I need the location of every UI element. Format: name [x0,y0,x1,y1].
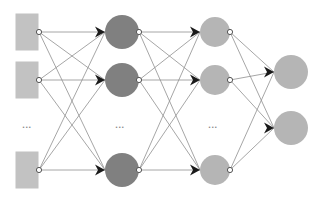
input-node-rect[interactable] [16,152,39,189]
hidden-1-node-circle[interactable] [105,153,139,187]
ellipsis-labels: ......... [22,120,217,130]
output-node-circle[interactable] [274,111,308,145]
node-output-port[interactable] [227,29,232,34]
hidden-2-node-circle[interactable] [200,65,230,95]
connection-edge [230,32,274,128]
hidden-1-ellipsis: ... [115,120,124,130]
node-ports [36,29,232,172]
node-output-port[interactable] [227,167,232,172]
node-output-port[interactable] [36,167,41,172]
layer-nodes [16,14,309,189]
node-output-port[interactable] [227,77,232,82]
hidden-2-node-circle[interactable] [200,17,230,47]
output-node-circle[interactable] [274,55,308,89]
node-output-port[interactable] [136,29,141,34]
neural-network-canvas: ......... [0,0,324,201]
neural-network-diagram: ......... [0,0,324,201]
hidden-2-node-circle[interactable] [200,155,230,185]
connection-edge [230,128,274,170]
connection-edge [230,32,274,72]
input-ellipsis: ... [22,120,31,130]
connection-edges [39,32,274,170]
node-output-port[interactable] [36,29,41,34]
node-output-port[interactable] [36,77,41,82]
input-node-rect[interactable] [16,62,39,99]
hidden-1-node-circle[interactable] [105,63,139,97]
node-output-port[interactable] [136,77,141,82]
input-node-rect[interactable] [16,14,39,51]
node-output-port[interactable] [136,167,141,172]
hidden-1-node-circle[interactable] [105,15,139,49]
hidden-2-ellipsis: ... [208,120,217,130]
